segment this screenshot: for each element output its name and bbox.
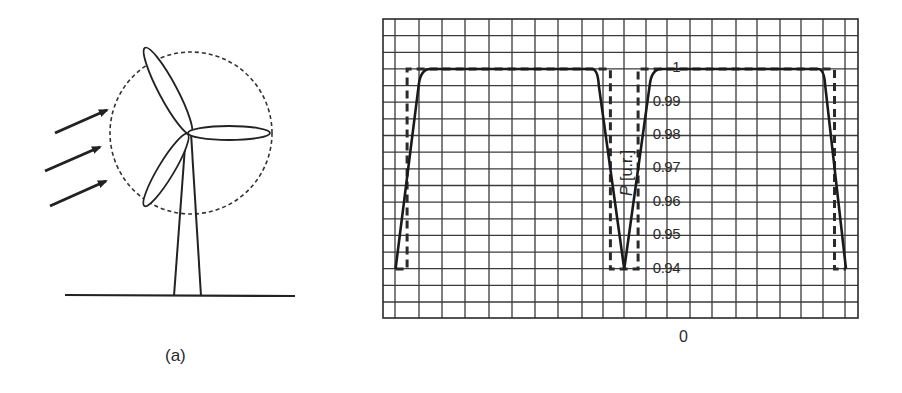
- wind-arrow-icon: [50, 181, 106, 206]
- x-tick-label: 0: [679, 328, 688, 346]
- panel-a-caption: (a): [165, 346, 186, 366]
- wind-turbine-drawing: [0, 0, 330, 393]
- y-tick-label: 1: [620, 58, 680, 75]
- power-chart-plot: [300, 0, 902, 393]
- y-tick-label: 0.99: [620, 92, 680, 109]
- wind-arrows: [45, 110, 107, 206]
- three-blade-rotor: [137, 44, 270, 211]
- ground-line: [65, 295, 295, 296]
- y-axis-symbol: P: [618, 185, 635, 196]
- wind-arrow-icon: [55, 110, 107, 133]
- panel-b-power-chart: 1 0.99 0.98 0.97 0.96 0.95 0.94 P [u.r.]…: [300, 0, 902, 393]
- y-axis-unit: [u.r.]: [618, 150, 635, 181]
- panel-a-wind-turbine: (a): [0, 0, 330, 393]
- y-axis-label: P [u.r.]: [618, 150, 636, 196]
- y-tick-label: 0.94: [620, 259, 680, 276]
- y-tick-label: 0.98: [620, 125, 680, 142]
- wind-arrow-icon: [45, 147, 100, 171]
- y-tick-label: 0.95: [620, 225, 680, 242]
